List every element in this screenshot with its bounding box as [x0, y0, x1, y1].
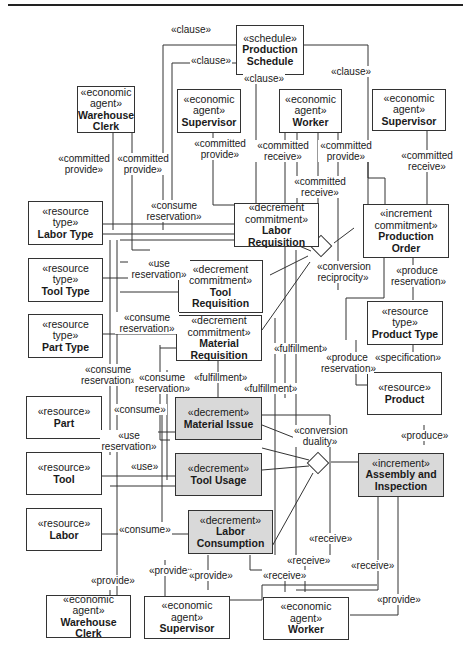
- box-name: Labor Type: [38, 229, 94, 241]
- provide-label: «provide»: [188, 570, 234, 581]
- committed-provide-label: «committed provide»: [115, 153, 171, 175]
- box-name: Tool Type: [41, 286, 89, 298]
- receive-label: «receive»: [350, 560, 395, 571]
- box-name: Product: [385, 394, 425, 406]
- stereotype: «economic agent»: [80, 87, 132, 110]
- tool-box[interactable]: «resource» Tool: [26, 452, 102, 495]
- tool-requisition-box[interactable]: «decrement commitment» Tool Requisition: [178, 260, 263, 313]
- labor-type-box[interactable]: «resource type» Labor Type: [28, 201, 103, 245]
- box-name: Production Order: [366, 231, 446, 254]
- labor-requisition-box[interactable]: «decrement commitment» Labor Requisition: [234, 203, 319, 247]
- box-name: Production Schedule: [239, 44, 301, 67]
- conversion-duality-label: «conversion duality»: [293, 425, 347, 447]
- stereotype: «economic agent»: [147, 600, 227, 623]
- worker-bottom-box[interactable]: «economic agent» Worker: [263, 597, 349, 640]
- tool-type-box[interactable]: «resource type» Tool Type: [28, 258, 103, 302]
- box-name: Part: [54, 418, 74, 430]
- produce-reservation-label: «produce reservation»: [390, 265, 444, 287]
- box-name: Assembly and Inspection: [361, 469, 441, 492]
- warehouse-clerk-top-box[interactable]: «economic agent» Warehouse Clerk: [77, 86, 135, 133]
- use-reservation-label: «use reservation»: [128, 258, 190, 280]
- material-issue-box[interactable]: «decrement» Material Issue: [175, 397, 262, 440]
- fulfillment-label: «fulfillment»: [193, 372, 248, 383]
- provide-label: «provide»: [376, 594, 422, 605]
- supervisor-top-left-box[interactable]: «economic agent» Supervisor: [177, 89, 241, 133]
- consume-reservation-label: «consume reservation»: [143, 200, 205, 222]
- assembly-inspection-box[interactable]: «increment» Assembly and Inspection: [358, 453, 444, 497]
- box-name: Worker: [293, 117, 329, 129]
- box-name: Labor: [49, 530, 78, 542]
- supervisor-top-right-box[interactable]: «economic agent» Supervisor: [372, 89, 446, 131]
- production-schedule-box[interactable]: «schedule» Production Schedule: [236, 25, 304, 75]
- box-name: Material Requisition: [179, 338, 259, 361]
- committed-receive-label: «committed receive»: [292, 176, 348, 198]
- stereotype: «economic agent»: [266, 601, 346, 624]
- clause-label: «clause»: [243, 73, 285, 84]
- clause-label: «clause»: [330, 66, 372, 77]
- stereotype: «resource type»: [31, 206, 100, 229]
- tool-usage-box[interactable]: «decrement» Tool Usage: [175, 453, 262, 496]
- box-name: Material Issue: [184, 419, 253, 431]
- receive-label: «receive»: [286, 555, 331, 566]
- material-requisition-box[interactable]: «decrement commitment» Material Requisit…: [176, 315, 262, 361]
- product-type-box[interactable]: «resource type» Product Type: [367, 301, 443, 345]
- committed-provide-label: «committed provide»: [192, 138, 248, 160]
- consume-reservation-label: «consume reservation»: [80, 364, 136, 386]
- stereotype: «increment commitment»: [366, 208, 446, 231]
- specification-label: «specification»: [374, 352, 442, 363]
- stereotype: «resource»: [38, 462, 91, 474]
- box-name: Product Type: [372, 329, 438, 341]
- box-name: Tool Usage: [191, 475, 247, 487]
- stereotype: «resource»: [38, 406, 91, 418]
- committed-provide-label: «committed provide»: [56, 153, 112, 175]
- fulfillment-label: «fulfillment»: [243, 383, 298, 394]
- use-reservation-label: «use reservation»: [100, 430, 158, 452]
- part-type-box[interactable]: «resource type» Part Type: [28, 314, 103, 358]
- box-name: Worker: [288, 624, 324, 636]
- stereotype: «economic agent»: [375, 93, 443, 116]
- consume-reservation-label: «consume reservation»: [115, 312, 179, 334]
- product-box[interactable]: «resource» Product: [367, 372, 442, 415]
- stereotype: «resource type»: [370, 306, 440, 329]
- stereotype: «decrement commitment»: [237, 202, 316, 225]
- clause-label: «clause»: [170, 24, 212, 35]
- conversion-reciprocity-label: «conversion reciprocity»: [316, 261, 370, 283]
- box-name: Warehouse Clerk: [49, 617, 128, 640]
- box-name: Labor Requisition: [237, 225, 316, 248]
- box-name: Part Type: [42, 342, 89, 354]
- stereotype: «decrement commitment»: [181, 264, 260, 287]
- box-name: Tool Requisition: [181, 287, 260, 310]
- part-box[interactable]: «resource» Part: [26, 396, 102, 439]
- stereotype: «decrement»: [188, 407, 249, 419]
- supervisor-bottom-box[interactable]: «economic agent» Supervisor: [144, 596, 230, 639]
- box-name: Warehouse Clerk: [78, 110, 134, 133]
- production-order-box[interactable]: «increment commitment» Production Order: [363, 204, 449, 258]
- receive-label: «receive»: [308, 533, 353, 544]
- clause-label: «clause»: [190, 55, 232, 66]
- box-name: Tool: [53, 474, 74, 486]
- box-name: Supervisor: [182, 117, 237, 129]
- produce-label: «produce»: [400, 430, 449, 441]
- receive-label: «receive»: [262, 570, 307, 581]
- stereotype: «economic agent»: [282, 94, 339, 117]
- box-name: Supervisor: [160, 623, 215, 635]
- stereotype: «economic agent»: [49, 594, 128, 617]
- consume-reservation-label: «consume reservation»: [134, 372, 190, 394]
- stereotype: «resource type»: [31, 319, 100, 342]
- stereotype: «resource type»: [31, 263, 100, 286]
- stereotype: «decrement commitment»: [179, 315, 259, 338]
- worker-top-box[interactable]: «economic agent» Worker: [279, 89, 342, 133]
- committed-receive-label: «committed receive»: [398, 150, 456, 172]
- warehouse-clerk-bottom-box[interactable]: «economic agent» Warehouse Clerk: [46, 595, 131, 638]
- labor-consumption-box[interactable]: «decrement» Labor Consumption: [188, 510, 273, 554]
- committed-provide-label: «committed provide»: [318, 140, 374, 162]
- provide-label: «provide»: [90, 575, 136, 586]
- stereotype: «decrement»: [188, 463, 249, 475]
- box-name: Supervisor: [382, 116, 437, 128]
- consume-label: «consume»: [118, 524, 172, 535]
- fulfillment-label: «fulfillment»: [273, 343, 328, 354]
- stereotype: «resource»: [378, 382, 431, 394]
- labor-box[interactable]: «resource» Labor: [26, 508, 102, 551]
- consume-label: «consume»: [113, 404, 167, 415]
- box-name: Labor Consumption: [191, 526, 270, 549]
